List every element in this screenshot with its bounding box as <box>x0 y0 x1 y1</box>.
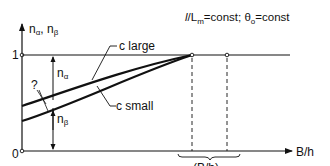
question-leader-1 <box>37 90 46 104</box>
y-axis-label: nα, nβ <box>29 22 59 37</box>
y-tick-zero: 0 <box>12 147 19 161</box>
y-tick-one: 1 <box>12 48 19 62</box>
label-c-small: c small <box>116 99 153 113</box>
question-mark-label: ? <box>31 78 38 92</box>
diagram-title: l/Lm=const; θo=const <box>185 11 290 26</box>
label-c-large: c large <box>119 39 155 53</box>
label-n-beta: nβ <box>57 112 69 127</box>
threshold-marker-2 <box>225 53 229 57</box>
range-brace <box>178 154 240 160</box>
curve-c-small <box>22 55 192 121</box>
brace-label: (B/h)* <box>193 161 223 166</box>
threshold-marker-1 <box>190 53 194 57</box>
x-axis-label: B/h <box>296 145 314 159</box>
diagram-canvas: l/Lm=const; θo=const nα, nβ B/h 1 0 c la… <box>0 0 330 166</box>
curve-c-large <box>22 55 192 106</box>
origin-marker <box>20 149 24 153</box>
label-n-alpha: nα <box>57 66 69 81</box>
